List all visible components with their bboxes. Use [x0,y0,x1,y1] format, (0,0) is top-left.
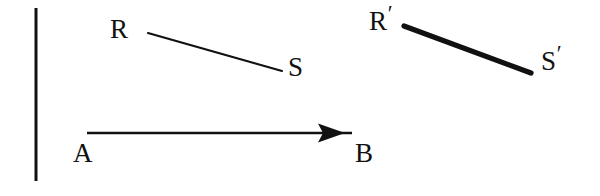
prime-mark-icon: ′ [557,41,562,66]
label-S: S [288,54,303,81]
label-B: B [355,140,373,167]
label-R-prime: R′ [369,8,392,35]
label-S-prime: S′ [541,48,561,75]
figure-canvas-root: R S R′ S′ A B [0,0,600,196]
label-R-prime-base: R [369,6,387,36]
label-A: A [73,140,93,167]
label-R: R [110,16,128,43]
prime-mark-icon: ′ [388,1,393,26]
label-S-prime-base: S [541,46,556,76]
